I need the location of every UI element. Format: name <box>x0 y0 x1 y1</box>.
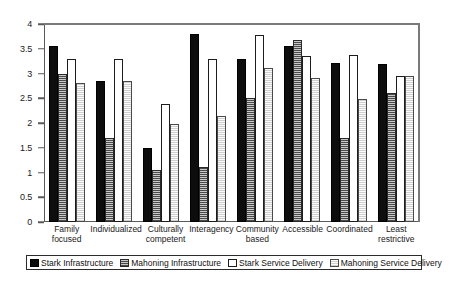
x-axis-label: Culturally competent <box>143 225 188 244</box>
chart-legend: Stark InfrastructureMahoning Infrastruct… <box>26 255 422 270</box>
y-axis-tick-label: 4 <box>27 19 32 29</box>
x-axis-label: Least restrictive <box>374 225 419 244</box>
bar-group <box>278 24 325 222</box>
bar <box>293 40 302 222</box>
x-axis-label: Individualized <box>89 225 143 244</box>
bar <box>311 78 320 222</box>
legend-item[interactable]: Mahoning Service Delivery <box>330 258 442 268</box>
legend-label: Mahoning Infrastructure <box>131 258 221 268</box>
bar-group <box>44 24 91 222</box>
bar <box>208 59 217 222</box>
bar <box>170 124 179 222</box>
bar-chart: 00.511.522.533.54 Family focusedIndividu… <box>0 0 458 281</box>
bar <box>255 35 264 222</box>
bar <box>396 76 405 222</box>
y-axis-tick-label: 1.5 <box>20 143 32 153</box>
bar-group <box>325 24 372 222</box>
legend-item[interactable]: Stark Service Delivery <box>228 258 323 268</box>
legend-item[interactable]: Stark Infrastructure <box>30 258 113 268</box>
y-axis: 00.511.522.533.54 <box>0 0 40 281</box>
bar-group <box>232 24 279 222</box>
x-axis-label: Coordinated <box>325 225 373 244</box>
legend-swatch-icon <box>330 259 339 267</box>
bar <box>190 34 199 222</box>
legend-item[interactable]: Mahoning Infrastructure <box>120 258 221 268</box>
y-axis-tick-label: 3 <box>27 69 32 79</box>
x-axis-label: Family focused <box>44 225 89 244</box>
bar-group <box>372 24 419 222</box>
x-axis-labels: Family focusedIndividualizedCulturally c… <box>44 225 419 244</box>
bar <box>264 68 273 222</box>
bar <box>405 76 414 222</box>
bar <box>378 64 387 222</box>
bar <box>358 99 367 222</box>
bar-groups <box>44 24 419 222</box>
bar-group <box>185 24 232 222</box>
bar <box>284 46 293 222</box>
bar <box>302 56 311 222</box>
legend-swatch-icon <box>228 259 237 267</box>
bar <box>199 167 208 222</box>
legend-label: Mahoning Service Delivery <box>341 258 442 268</box>
bar <box>67 59 76 222</box>
bar-group <box>138 24 185 222</box>
x-axis-label: Interagency <box>188 225 234 244</box>
bar <box>76 83 85 222</box>
bar-group <box>91 24 138 222</box>
y-axis-tick-label: 3.5 <box>20 44 32 54</box>
bar <box>331 63 340 222</box>
x-axis-label: Community based <box>235 225 280 244</box>
y-axis-tick-label: 1 <box>27 168 32 178</box>
bar <box>340 138 349 222</box>
legend-swatch-icon <box>120 259 129 267</box>
y-axis-tick-label: 2 <box>27 118 32 128</box>
legend-swatch-icon <box>30 259 39 267</box>
bar <box>237 59 246 222</box>
bar <box>143 148 152 222</box>
bar <box>387 93 396 222</box>
bar <box>58 74 67 223</box>
y-axis-tick-label: 0 <box>27 217 32 227</box>
bar <box>123 81 132 222</box>
y-axis-tick-label: 0.5 <box>20 192 32 202</box>
bar <box>49 46 58 222</box>
bar <box>114 59 123 222</box>
bar <box>96 81 105 222</box>
x-axis-label: Accessible <box>280 225 325 244</box>
bar <box>246 98 255 222</box>
legend-label: Stark Service Delivery <box>239 258 323 268</box>
y-axis-tick-label: 2.5 <box>20 93 32 103</box>
legend-label: Stark Infrastructure <box>41 258 113 268</box>
bar <box>152 170 161 222</box>
bar <box>105 138 114 222</box>
bar <box>349 55 358 222</box>
bar <box>161 104 170 222</box>
bar <box>217 116 226 222</box>
